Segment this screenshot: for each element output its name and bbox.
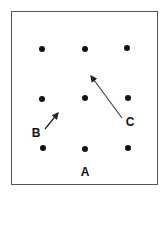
label-b: B — [32, 127, 41, 139]
label-a: A — [81, 166, 90, 178]
label-c: C — [126, 116, 135, 128]
arrow-b — [45, 113, 58, 129]
arrow-c — [91, 76, 122, 118]
